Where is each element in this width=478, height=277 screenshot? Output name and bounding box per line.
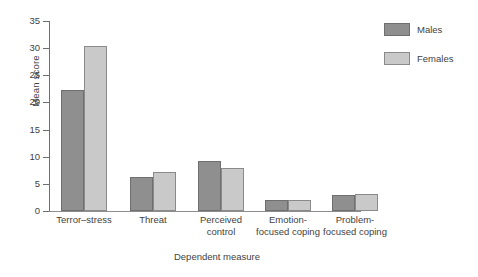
bar-group [198, 21, 244, 211]
bar-females [153, 172, 176, 211]
y-axis-title: Mean score [30, 38, 44, 124]
bar-chart-figure: 05101520253035 Mean score Terror–stressT… [0, 0, 478, 277]
y-axis-tick-label: 0 [14, 206, 40, 216]
x-axis-title: Dependent measure [137, 251, 297, 262]
y-axis-tick [43, 211, 49, 212]
legend-item-females: Females [384, 50, 453, 66]
legend-swatch-males [384, 23, 410, 36]
bar-females [288, 200, 311, 211]
bar-females [355, 194, 378, 211]
x-axis-category-label-line: Problem- [309, 214, 401, 226]
legend-label-females: Females [417, 53, 453, 64]
bar-males [198, 161, 221, 211]
y-axis-tick-label: 15 [14, 125, 40, 135]
y-axis-tick-label: 5 [14, 179, 40, 189]
legend: Males Females [384, 21, 453, 79]
x-axis-category-label-line: focused coping [309, 226, 401, 238]
bar-group [332, 21, 378, 211]
bar-group [130, 21, 176, 211]
plot-area [49, 21, 359, 211]
legend-label-males: Males [417, 24, 442, 35]
x-axis-line [49, 211, 361, 212]
y-axis-title-text: Mean score [30, 38, 41, 124]
bar-males [130, 177, 153, 211]
bar-males [61, 90, 84, 211]
y-axis-tick-label: 35 [14, 16, 40, 26]
bar-males [265, 200, 288, 211]
bar-females [221, 168, 244, 211]
bar-females [84, 46, 107, 211]
bar-males [332, 195, 355, 211]
legend-swatch-females [384, 52, 410, 65]
bar-group [61, 21, 107, 211]
y-axis-tick-label: 10 [14, 152, 40, 162]
bar-group [265, 21, 311, 211]
legend-item-males: Males [384, 21, 453, 37]
x-axis-category-label: Problem-focused coping [309, 214, 401, 237]
